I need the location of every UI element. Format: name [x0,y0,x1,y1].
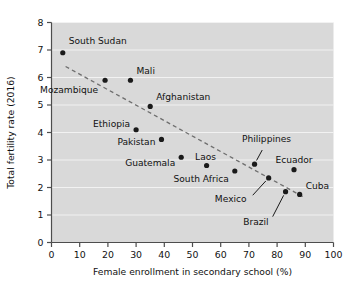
data-point-label: Brazil [243,217,268,227]
data-point-label: Mozambique [40,85,98,95]
data-point [159,137,164,142]
x-tick-label: 90 [299,249,311,260]
data-point [134,127,139,132]
data-point [204,163,209,168]
data-point [252,162,257,167]
data-point-label: South Africa [174,174,229,184]
data-point [102,78,107,83]
data-point-label: Ecuador [275,155,312,165]
data-point [297,192,302,197]
x-tick-label: 60 [215,249,227,260]
x-tick-label: 30 [130,249,142,260]
chart-canvas: 0102030405060708090100 012345678 South S… [0,0,350,294]
data-point-label: Cuba [306,181,329,191]
data-point [128,78,133,83]
data-point-label: Guatemala [125,158,175,168]
y-tick-label: 7 [38,44,44,55]
data-point-label: Philippines [242,134,291,144]
y-tick-label: 0 [38,237,44,248]
y-tick-label: 3 [38,154,44,165]
x-tick-label: 100 [325,249,343,260]
x-tick-label: 10 [74,249,86,260]
x-tick-label: 50 [187,249,199,260]
data-point-label: Mali [136,66,154,76]
y-tick-label: 2 [38,182,44,193]
data-point [179,155,184,160]
data-point-label: Pakistan [117,137,155,147]
y-axis-title: Total fertility rate (2016) [5,76,16,189]
y-tick-label: 4 [38,127,44,138]
data-point-label: South Sudan [69,36,127,46]
x-tick-label: 0 [49,249,55,260]
y-tick-label: 8 [38,17,44,28]
y-tick-label: 6 [38,72,44,83]
x-tick-label: 70 [243,249,255,260]
y-tick-label: 1 [38,209,44,220]
data-point-label: Ethiopia [93,119,130,129]
data-point-label: Afghanistan [156,92,210,102]
data-point-label: Laos [195,152,216,162]
data-point-label: Mexico [215,194,247,204]
data-point [232,168,237,173]
data-point [148,104,153,109]
data-point [60,50,65,55]
data-point [291,167,296,172]
x-tick-label: 40 [158,249,170,260]
x-tick-label: 20 [102,249,114,260]
x-tick-label: 80 [271,249,283,260]
x-axis-title: Female enrollment in secondary school (%… [93,266,292,277]
data-point [283,189,288,194]
data-point [266,175,271,180]
scatter-plot-figure: 0102030405060708090100 012345678 South S… [0,0,350,294]
y-tick-label: 5 [38,99,44,110]
